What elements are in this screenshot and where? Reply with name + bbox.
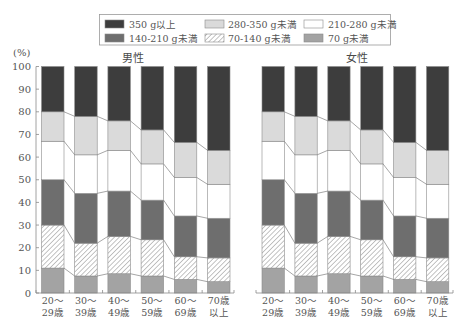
legend-label: 350 g以上	[129, 19, 176, 30]
legend: 350 g以上 280-350 g未満 210-280 g未満 140-210 …	[100, 15, 397, 46]
bar-segment	[208, 67, 231, 151]
bar-segment	[141, 200, 164, 240]
connector-line	[350, 121, 361, 130]
connector-line	[284, 268, 295, 276]
connector-line	[197, 279, 208, 281]
bar-segment	[108, 150, 130, 191]
connector-line	[284, 112, 295, 117]
bar-segment	[174, 216, 197, 257]
bar-segment	[262, 180, 284, 225]
bar-segment	[394, 216, 416, 257]
category-label: 69歳	[394, 307, 416, 318]
chart-panel-female: 女性 20～29歳30～39歳40～49歳50～59歳60～69歳70歳以上	[256, 51, 453, 318]
category-label: 50～	[141, 295, 163, 306]
connector-line	[97, 116, 108, 121]
bar-segment	[208, 218, 231, 258]
legend-swatch	[205, 34, 224, 42]
bar-segment	[75, 67, 98, 117]
bar-segment	[141, 130, 164, 164]
bar-segment	[361, 67, 383, 130]
legend-label: 70 g未満	[328, 33, 369, 44]
bar-segment	[75, 155, 98, 194]
stacked-bar	[108, 67, 130, 294]
legend-item-under-70: 70 g未満	[304, 33, 369, 44]
category-label: 29歳	[42, 307, 64, 318]
connector-line	[317, 191, 328, 193]
y-tick-label: 40	[18, 197, 31, 208]
panel-title: 男性	[122, 51, 144, 65]
bar-segment	[141, 240, 164, 276]
category-label: 39歳	[75, 307, 97, 318]
connector-line	[130, 191, 141, 200]
bar-segment	[361, 240, 383, 276]
category-label: 69歳	[175, 307, 197, 318]
connector-line	[317, 236, 328, 243]
legend-item-350-plus: 350 g以上	[105, 19, 176, 30]
bar-segment	[328, 274, 350, 293]
bar-segment	[361, 200, 383, 240]
panel-title: 女性	[346, 51, 368, 65]
connector-line	[350, 274, 361, 276]
bar-segment	[295, 67, 317, 117]
bar-segment	[108, 274, 130, 293]
connector-line	[164, 164, 175, 178]
connector-line	[197, 142, 208, 150]
bar-segment	[174, 257, 197, 280]
y-tick-label: 80	[18, 106, 31, 117]
y-tick-label: 0	[25, 288, 31, 299]
connector-line	[164, 276, 175, 279]
legend-swatch	[205, 20, 224, 28]
category-label: 以上	[428, 307, 448, 318]
connector-line	[284, 225, 295, 243]
bar-segment	[108, 191, 130, 236]
connector-line	[97, 236, 108, 243]
y-tick-label: 30	[18, 220, 31, 231]
bar-segment	[141, 276, 164, 293]
bar-segment	[208, 150, 231, 184]
category-label: 29歳	[262, 307, 284, 318]
connector-line	[164, 130, 175, 142]
bar-segment	[427, 150, 449, 184]
connector-line	[284, 180, 295, 194]
y-tick-label: 20	[18, 242, 31, 253]
category-label: 60～	[394, 295, 416, 306]
connector-line	[197, 216, 208, 218]
bar-segment	[394, 67, 416, 143]
bar-segment	[427, 258, 449, 282]
category-label: 30～	[75, 295, 97, 306]
bar-segment	[75, 193, 98, 243]
bar-segment	[75, 276, 98, 293]
bar-segment	[295, 243, 317, 276]
bar-segment	[42, 225, 65, 268]
bar-segment	[328, 67, 350, 121]
connector-line	[416, 257, 427, 258]
bar-segment	[295, 193, 317, 243]
bar-segment	[42, 67, 65, 112]
bar-segment	[427, 184, 449, 218]
y-tick-label: 10	[18, 265, 31, 276]
bar-segment	[361, 130, 383, 164]
stacked-bar	[262, 67, 284, 294]
category-label: 49歳	[328, 307, 350, 318]
y-tick-label: 50	[18, 174, 31, 185]
legend-item-70-140: 70-140 g未満	[205, 33, 291, 44]
connector-line	[383, 164, 394, 178]
bar-segment	[108, 67, 130, 121]
y-axis-unit-label: (%)	[13, 47, 30, 58]
connector-line	[416, 216, 427, 218]
bar-segment	[295, 116, 317, 155]
connector-line	[130, 236, 141, 239]
stacked-bar	[141, 67, 164, 294]
y-tick-label: 90	[18, 84, 31, 95]
stacked-bar-chart-svg: 350 g以上 280-350 g未満 210-280 g未満 140-210 …	[0, 0, 466, 328]
stacked-bar	[361, 67, 383, 294]
bar-segment	[75, 243, 98, 276]
legend-label: 140-210 g未満	[129, 33, 198, 44]
stacked-bar	[295, 67, 317, 294]
connector-line	[64, 141, 75, 155]
connector-line	[350, 150, 361, 164]
bar-segment	[208, 184, 231, 218]
stacked-bar	[42, 67, 65, 294]
category-label: 49歳	[108, 307, 130, 318]
stacked-bar	[328, 67, 350, 294]
